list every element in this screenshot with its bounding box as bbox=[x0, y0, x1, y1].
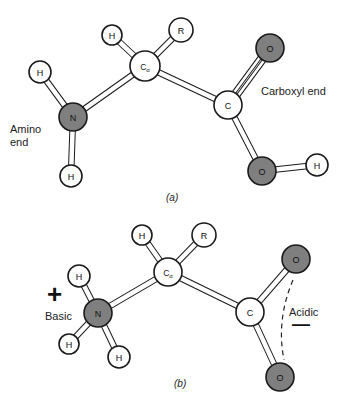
atom-n: N bbox=[59, 103, 87, 131]
panel-b-zwitterion-amino-acid: HNHHCαHRCOO bbox=[59, 223, 310, 391]
amino-end-label-line1: Amino bbox=[10, 123, 41, 136]
atom-label: C bbox=[225, 101, 232, 111]
atom-o: O bbox=[248, 157, 276, 185]
atom-label: O bbox=[292, 255, 299, 265]
atom-o: O bbox=[282, 245, 310, 273]
atom-label: O bbox=[266, 44, 273, 54]
atom-c-alpha: Cα bbox=[130, 51, 160, 81]
panel-b-caption: (b) bbox=[174, 378, 186, 389]
basic-label: Basic bbox=[45, 310, 72, 323]
atom-h: H bbox=[102, 25, 122, 45]
atom-h: H bbox=[29, 61, 51, 83]
atom-label: H bbox=[68, 172, 75, 182]
negative-charge-sign: — bbox=[292, 315, 310, 333]
panel-a-caption: (a) bbox=[166, 192, 178, 203]
atom-r: R bbox=[169, 18, 193, 42]
atom-h: H bbox=[68, 265, 90, 287]
atom-label: H bbox=[139, 231, 146, 241]
atom-h: H bbox=[59, 334, 79, 354]
panel-b-atoms: HNHHCαHRCOO bbox=[59, 223, 310, 391]
atom-label: R bbox=[178, 26, 185, 36]
atom-h: H bbox=[108, 346, 130, 368]
atom-c: C bbox=[236, 298, 264, 326]
atom-label: N bbox=[70, 113, 77, 123]
panel-a-uncharged-amino-acid: HNHCαHRCOOH bbox=[29, 18, 328, 187]
amino-acid-diagram: HNHCαHRCOOH HNHHCαHRCOO bbox=[0, 0, 348, 409]
atom-n: N bbox=[84, 299, 112, 327]
atom-label: R bbox=[201, 231, 208, 241]
carboxyl-end-label: Carboxyl end bbox=[261, 85, 326, 98]
atom-label: H bbox=[37, 68, 44, 78]
atom-label: H bbox=[66, 340, 73, 350]
atom-h: H bbox=[306, 154, 328, 176]
atom-label: H bbox=[314, 161, 321, 171]
atom-label: H bbox=[116, 353, 123, 363]
atom-label: O bbox=[258, 167, 265, 177]
atom-h: H bbox=[60, 165, 82, 187]
atom-label: O bbox=[276, 373, 283, 383]
amino-end-label-line2: end bbox=[10, 136, 28, 149]
atom-c: C bbox=[214, 91, 242, 119]
atom-c-alpha: Cα bbox=[154, 258, 182, 286]
atom-label: H bbox=[109, 31, 116, 41]
atom-label: H bbox=[76, 272, 83, 282]
atom-o: O bbox=[256, 34, 284, 62]
atom-label: C bbox=[247, 308, 254, 318]
atom-r: R bbox=[192, 223, 216, 247]
atom-o: O bbox=[266, 363, 294, 391]
atom-h: H bbox=[132, 225, 152, 245]
positive-charge-sign: + bbox=[47, 281, 62, 307]
atom-label: N bbox=[95, 309, 102, 319]
